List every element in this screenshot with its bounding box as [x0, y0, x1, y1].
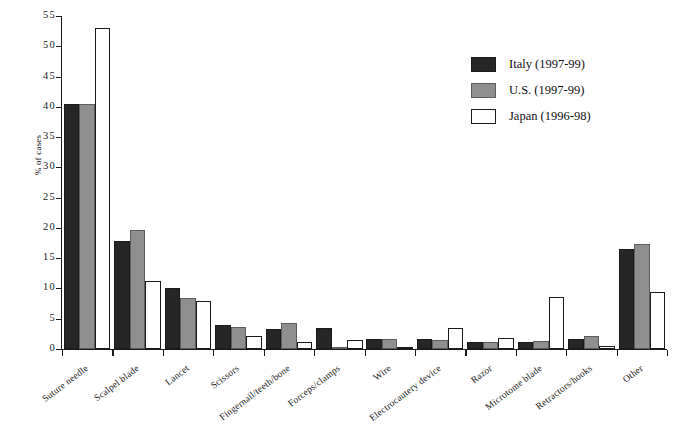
- legend: Italy (1997-99)U.S. (1997-99)Japan (1996…: [471, 51, 671, 129]
- y-tick-label: 30: [22, 161, 56, 172]
- y-tick-label: 0: [22, 343, 56, 354]
- bar-us[interactable]: [483, 342, 499, 349]
- bar-group: [417, 16, 464, 349]
- y-axis-tick-labels: 0510152025303540455055: [22, 0, 56, 447]
- bar-japan[interactable]: [145, 281, 161, 349]
- x-tick-label: Fingernail/teeth/bone: [190, 363, 292, 443]
- bar-group: [215, 16, 262, 349]
- bar-us[interactable]: [382, 339, 398, 349]
- x-tick-mark: [617, 350, 618, 356]
- bar-japan[interactable]: [549, 297, 565, 349]
- legend-swatch-italy: [471, 57, 496, 72]
- bar-japan[interactable]: [95, 28, 111, 349]
- bar-chart: % of cases 0510152025303540455055 Suture…: [0, 0, 679, 447]
- bar-italy[interactable]: [114, 241, 130, 349]
- y-tick-label: 40: [22, 101, 56, 112]
- bar-us[interactable]: [332, 347, 348, 349]
- bar-us[interactable]: [180, 298, 196, 349]
- bar-italy[interactable]: [467, 342, 483, 349]
- legend-item[interactable]: U.S. (1997-99): [471, 77, 671, 103]
- bar-group: [266, 16, 313, 349]
- x-tick-label: Forceps/clamps: [240, 363, 342, 443]
- x-tick-mark: [365, 350, 366, 356]
- bar-japan[interactable]: [196, 301, 212, 349]
- x-tick-label: Electrocautery device: [341, 363, 443, 443]
- y-tick-label: 55: [22, 10, 56, 21]
- x-tick-label: Razor: [392, 363, 494, 443]
- y-tick-label: 50: [22, 40, 56, 51]
- bar-us[interactable]: [281, 323, 297, 349]
- bar-italy[interactable]: [316, 328, 332, 349]
- y-tick-label: 10: [22, 282, 56, 293]
- bar-japan[interactable]: [448, 328, 464, 349]
- bar-japan[interactable]: [498, 338, 514, 349]
- bar-us[interactable]: [130, 230, 146, 349]
- x-tick-mark: [264, 350, 265, 356]
- legend-label: Italy (1997-99): [509, 57, 585, 72]
- bar-italy[interactable]: [619, 249, 635, 349]
- x-tick-mark: [415, 350, 416, 356]
- bar-group: [366, 16, 413, 349]
- x-tick-mark: [465, 350, 466, 356]
- bar-japan[interactable]: [246, 336, 262, 349]
- bar-us[interactable]: [79, 104, 95, 349]
- legend-item[interactable]: Italy (1997-99): [471, 51, 671, 77]
- bar-italy[interactable]: [165, 288, 181, 349]
- bar-italy[interactable]: [568, 339, 584, 349]
- y-tick-label: 25: [22, 192, 56, 203]
- bar-group: [165, 16, 212, 349]
- y-tick-label: 20: [22, 222, 56, 233]
- x-tick-mark: [112, 350, 113, 356]
- x-tick-label: Retractors/hooks: [493, 363, 595, 443]
- bar-italy[interactable]: [266, 329, 282, 349]
- x-tick-label: Scissors: [140, 363, 242, 443]
- x-tick-mark: [163, 350, 164, 356]
- x-tick-label: Other: [543, 363, 645, 443]
- bar-italy[interactable]: [417, 339, 433, 349]
- bar-japan[interactable]: [599, 346, 615, 349]
- legend-item[interactable]: Japan (1996-98): [471, 103, 671, 129]
- x-tick-mark: [213, 350, 214, 356]
- legend-swatch-us: [471, 83, 496, 98]
- y-tick-label: 15: [22, 252, 56, 263]
- legend-swatch-japan: [471, 109, 496, 124]
- bar-us[interactable]: [634, 244, 650, 349]
- x-tick-label: Lancet: [89, 363, 191, 443]
- bar-japan[interactable]: [347, 340, 363, 349]
- bar-italy[interactable]: [64, 104, 80, 349]
- x-tick-mark: [314, 350, 315, 356]
- y-tick-label: 35: [22, 131, 56, 142]
- bar-us[interactable]: [533, 341, 549, 349]
- bar-us[interactable]: [432, 340, 448, 349]
- bar-us[interactable]: [584, 336, 600, 349]
- y-tick-label: 45: [22, 71, 56, 82]
- x-tick-label: Microtome blade: [442, 363, 544, 443]
- bar-japan[interactable]: [650, 292, 666, 349]
- bar-italy[interactable]: [366, 339, 382, 349]
- legend-label: Japan (1996-98): [509, 109, 591, 124]
- bar-group: [316, 16, 363, 349]
- bar-japan[interactable]: [397, 347, 413, 349]
- x-tick-mark: [667, 350, 668, 356]
- x-tick-label: Wire: [291, 363, 393, 443]
- x-tick-mark: [566, 350, 567, 356]
- bar-group: [64, 16, 111, 349]
- x-tick-mark: [62, 350, 63, 356]
- bar-italy[interactable]: [215, 325, 231, 349]
- legend-label: U.S. (1997-99): [509, 83, 584, 98]
- x-tick-mark: [516, 350, 517, 356]
- bar-us[interactable]: [231, 327, 247, 349]
- bar-group: [114, 16, 161, 349]
- bar-italy[interactable]: [518, 342, 534, 349]
- bar-japan[interactable]: [297, 342, 313, 349]
- y-tick-label: 5: [22, 313, 56, 324]
